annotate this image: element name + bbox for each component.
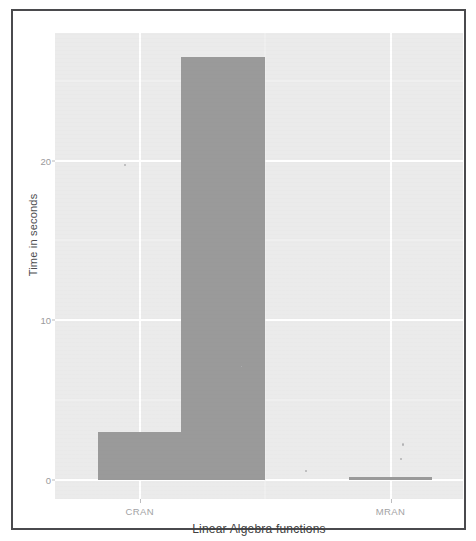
x-tick-mark xyxy=(140,499,141,503)
x-tick-label-cran: CRAN xyxy=(125,506,154,517)
x-tick-label-mran: MRAN xyxy=(376,506,406,517)
y-tick-label-10: 10 xyxy=(29,315,51,326)
figure-container: Time in seconds Linear Algebra functions… xyxy=(0,0,476,541)
bar-cran-0 xyxy=(98,432,182,480)
scan-speck xyxy=(402,443,404,446)
scan-speck xyxy=(241,366,242,367)
gridline-major-vertical xyxy=(390,33,392,499)
scan-speck xyxy=(400,458,402,460)
x-tick-mark xyxy=(391,499,392,503)
y-tick-label-0: 0 xyxy=(29,474,51,485)
bar-mran-2 xyxy=(349,477,433,479)
scan-speck xyxy=(124,164,126,166)
figure-frame: Time in seconds Linear Algebra functions… xyxy=(11,9,466,530)
x-axis-title: Linear Algebra functions xyxy=(55,522,463,536)
y-axis-title: Time in seconds xyxy=(27,145,39,325)
gridline-major-vertical xyxy=(139,33,141,499)
plot-panel xyxy=(55,33,463,499)
y-tick-label-20: 20 xyxy=(29,155,51,166)
scan-speck xyxy=(305,470,307,472)
bar-cran-1 xyxy=(181,57,265,480)
